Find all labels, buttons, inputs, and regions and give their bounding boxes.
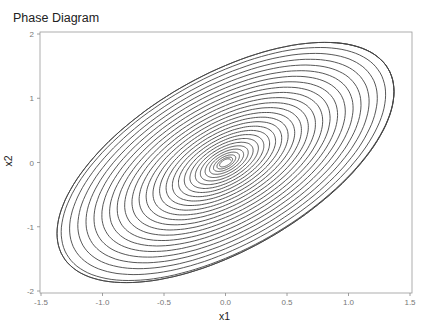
x-tick-label: 0.0 [220, 298, 232, 307]
x-tick-label: 1.5 [404, 298, 416, 307]
y-tick-label: 1 [30, 94, 35, 103]
x-tick-label: 0.5 [281, 298, 293, 307]
plot-frame [40, 32, 412, 293]
phase-plot: -1.5-1.0-0.50.00.51.01.5-2-1012 [0, 0, 434, 330]
y-tick-label: -1 [27, 223, 35, 232]
x-tick-label: 1.0 [343, 298, 355, 307]
x-tick-label: -1.0 [96, 298, 110, 307]
y-tick-label: -2 [27, 287, 35, 296]
y-tick-label: 0 [30, 159, 35, 168]
x-tick-label: -1.5 [34, 298, 48, 307]
x-tick-label: -0.5 [157, 298, 171, 307]
y-tick-label: 2 [30, 30, 35, 39]
trajectory-line [57, 42, 394, 282]
